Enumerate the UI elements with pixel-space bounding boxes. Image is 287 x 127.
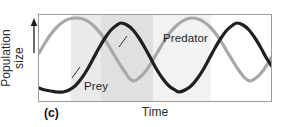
series-label-predator: Predator [163,32,208,44]
shaded-band-2 [101,15,153,102]
y-axis-label-line2: size [13,12,26,104]
shaded-band-3 [153,15,211,102]
y-axis-label-line1: Population [0,12,13,104]
shaded-band-4 [211,15,272,102]
series-label-prey: Prey [84,80,108,92]
plot-area: Predator Prey [38,14,272,102]
predator-prey-population-figure: Population size Predator Prey Time (c) [0,0,287,127]
y-axis-group: Population size [0,10,40,105]
x-axis-label: Time [38,105,272,119]
panel-letter: (c) [44,106,59,120]
population-cycles-chart [39,15,272,102]
y-axis-label: Population size [0,12,40,104]
